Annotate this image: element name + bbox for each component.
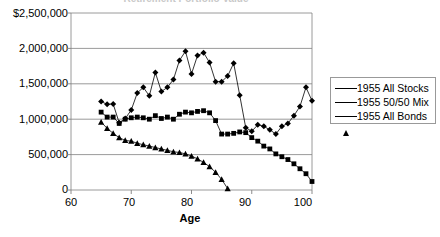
legend-label-all-bonds: 1955 All Bonds bbox=[357, 110, 427, 122]
x-tick-label-80: 80 bbox=[167, 196, 207, 208]
x-axis-title: Age bbox=[0, 212, 380, 224]
x-tick-label-70: 70 bbox=[109, 196, 149, 208]
legend-item-all-bonds[interactable]: 1955 All Bonds bbox=[331, 109, 435, 123]
square-marker-icon bbox=[335, 96, 357, 108]
x-tick-label-100: 100 bbox=[283, 196, 323, 208]
chart-container: Retirement Portfolio Value $2,500,000 2,… bbox=[0, 0, 440, 237]
triangle-marker-icon bbox=[335, 110, 357, 122]
legend-item-5050-mix[interactable]: 1955 50/50 Mix bbox=[331, 95, 435, 109]
axis-lines bbox=[67, 13, 312, 194]
legend-label-5050-mix: 1955 50/50 Mix bbox=[357, 96, 429, 108]
legend-item-all-stocks[interactable]: 1955 All Stocks bbox=[331, 81, 435, 95]
diamond-marker-icon bbox=[335, 82, 357, 94]
chart-legend: 1955 All Stocks 1955 50/50 Mix 1955 All … bbox=[330, 77, 436, 124]
legend-label-all-stocks: 1955 All Stocks bbox=[357, 82, 429, 94]
x-tick-label-90: 90 bbox=[225, 196, 265, 208]
x-tick-label-60: 60 bbox=[51, 196, 91, 208]
data-series-layer bbox=[98, 48, 315, 191]
